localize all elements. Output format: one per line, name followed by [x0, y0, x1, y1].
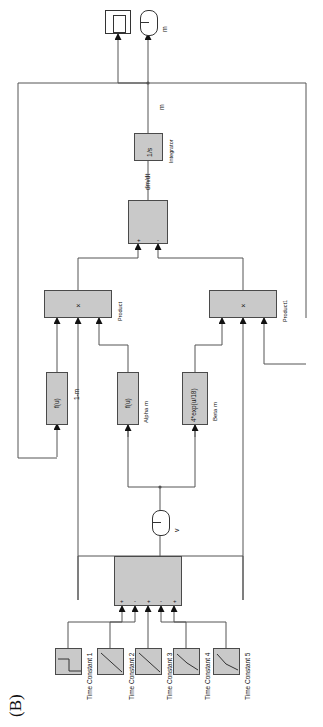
scope-block[interactable]	[105, 10, 131, 34]
output-port-m[interactable]	[140, 10, 158, 36]
signal-label-m: m	[158, 104, 165, 110]
integrator-expr: 1/s	[146, 148, 153, 157]
fcn-ku-block[interactable]: f(u)	[46, 372, 68, 425]
diagram-canvas: m m 1/s Integrator dm/dt + - × Product ×…	[0, 0, 323, 727]
product1-symbol: ×	[241, 302, 246, 310]
sum-top-sign-2: -	[157, 237, 159, 243]
sum-block-bottom[interactable]: + - + - +	[114, 556, 182, 606]
time-constant-4-label: Time Constant 4	[204, 653, 211, 700]
panel-label: (B)	[6, 694, 26, 717]
fcn-beta-m-expr: 4*exp(u/18)	[191, 388, 198, 422]
ramp-down-icon	[136, 649, 163, 676]
sum-bottom-sign-3: +	[147, 598, 151, 604]
scope-icon	[113, 15, 126, 33]
fcn-alpha-m-name-label: Alpha m	[143, 401, 149, 423]
ramp-down-icon	[214, 649, 241, 676]
product-block[interactable]: ×	[44, 290, 112, 318]
time-constant-2-block[interactable]	[97, 648, 124, 675]
product-name-label: Product	[117, 302, 123, 321]
product-symbol: ×	[76, 302, 81, 310]
time-constant-5-block[interactable]	[213, 648, 240, 675]
ramp-down-icon	[174, 649, 201, 676]
time-constant-2-label: Time Constant 2	[128, 653, 135, 700]
product1-block[interactable]: ×	[209, 290, 277, 318]
fcn-ku-expr: f(u)	[54, 398, 61, 408]
sum-bottom-sign-1: +	[120, 598, 124, 604]
signal-label-1-minus-m: 1-m	[73, 389, 80, 400]
input-port-v-label: v	[173, 529, 180, 533]
fcn-alpha-m-expr: f(u)	[125, 398, 132, 408]
ramp-down-icon	[98, 649, 125, 676]
sum-bottom-sign-2: -	[134, 598, 136, 604]
sum-bottom-sign-5: +	[173, 598, 177, 604]
integrator-name-label: Integrator	[168, 139, 174, 163]
time-constant-1-block[interactable]	[55, 648, 82, 675]
fcn-beta-m-name-label: Beta m	[212, 402, 218, 421]
time-constant-3-block[interactable]	[135, 648, 162, 675]
sum-block-top[interactable]: + -	[128, 200, 168, 244]
signal-label-dmdt: dm/dt	[144, 174, 151, 190]
input-port-notch-icon	[153, 522, 161, 523]
time-constant-4-block[interactable]	[173, 648, 200, 675]
fcn-alpha-m-block[interactable]: f(u)	[117, 372, 139, 425]
output-port-m-label: m	[161, 26, 168, 32]
time-constant-3-label: Time Constant 3	[166, 653, 173, 700]
product1-name-label: Product1	[282, 300, 288, 322]
time-constant-5-label: Time Constant 5	[244, 653, 251, 700]
port-notch-icon	[141, 22, 149, 23]
input-port-v[interactable]	[152, 510, 170, 536]
sum-bottom-sign-4: -	[160, 598, 162, 604]
integrator-block[interactable]: 1/s	[134, 133, 163, 161]
time-constant-1-label: Time Constant 1	[86, 653, 93, 700]
fcn-beta-m-block[interactable]: 4*exp(u/18)	[182, 372, 208, 425]
sum-top-sign-1: +	[137, 237, 141, 243]
step-icon	[56, 649, 83, 676]
